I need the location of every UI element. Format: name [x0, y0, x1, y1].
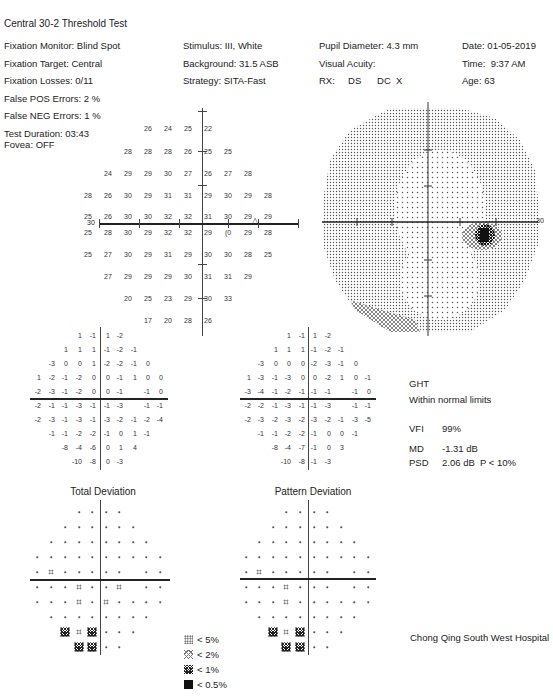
deviation-value: -2 [49, 374, 55, 381]
threshold-value: 28 [244, 170, 252, 177]
threshold-value: (0 [225, 229, 231, 236]
normal-dot-icon [353, 586, 355, 588]
test-title: Central 30-2 Threshold Test [4, 18, 127, 29]
deviation-value: 1 [247, 374, 251, 381]
deviation-value: 1 [78, 332, 82, 339]
deviation-value: 1 [106, 332, 110, 339]
normal-dot-icon [326, 541, 328, 543]
normal-dot-icon [91, 541, 93, 543]
normal-dot-icon [105, 556, 107, 558]
normal-dot-icon [78, 616, 80, 618]
p5-symbol-icon [77, 630, 82, 635]
threshold-value: 30 [224, 192, 232, 199]
deviation-value: -3 [285, 416, 291, 423]
deviation-value: -1 [311, 388, 317, 395]
deviation-value: -2 [35, 388, 41, 395]
patient-age: Age: 63 [462, 72, 536, 90]
exam-date: Date: 01-05-2019 [462, 37, 536, 55]
normal-dot-icon [258, 616, 260, 618]
deviation-value: -1 [90, 402, 96, 409]
normal-dot-icon [118, 616, 120, 618]
p1-symbol-icon [88, 643, 97, 652]
deviation-value: -3 [49, 416, 55, 423]
threshold-value: 30 [124, 229, 132, 236]
deviation-value: 1 [287, 332, 291, 339]
deviation-value: -3 [76, 416, 82, 423]
normal-dot-icon [313, 631, 315, 633]
threshold-value: 30 [124, 251, 132, 258]
normal-dot-icon [367, 586, 369, 588]
deviation-value: -1 [325, 388, 331, 395]
threshold-value: 26 [144, 125, 152, 132]
legend-2pct: < 2% [184, 647, 227, 662]
psd-label: PSD [409, 457, 442, 468]
threshold-value: 30 [204, 295, 212, 302]
stimulus-parameters: Stimulus: III, White Background: 31.5 AS… [183, 37, 279, 90]
deviation-value: -1 [117, 374, 123, 381]
deviation-value: -3 [325, 402, 331, 409]
visual-acuity: Visual Acuity: [319, 55, 418, 73]
deviation-value: -1 [311, 402, 317, 409]
normal-dot-icon [313, 541, 315, 543]
normal-dot-icon [299, 511, 301, 513]
normal-dot-icon [285, 541, 287, 543]
deviation-value: -2 [299, 416, 305, 423]
deviation-value: 1 [133, 430, 137, 437]
threshold-value: 31 [164, 192, 172, 199]
deviation-value: -2 [325, 416, 331, 423]
normal-dot-icon [285, 616, 287, 618]
normal-dot-icon [340, 526, 342, 528]
deviation-value: -3 [285, 402, 291, 409]
vfi-value: 99% [442, 423, 461, 434]
deviation-value: -8 [62, 444, 68, 451]
normal-dot-icon [299, 586, 301, 588]
deviation-value: 0 [301, 374, 305, 381]
deviation-value: -3 [104, 416, 110, 423]
threshold-value: 22 [204, 125, 212, 132]
normal-dot-icon [159, 571, 161, 573]
deviation-value: 0 [119, 430, 123, 437]
deviation-value: -1 [144, 430, 150, 437]
deviation-value: -4 [157, 416, 163, 423]
threshold-value: 30 [164, 170, 172, 177]
p5-symbol-icon [284, 630, 289, 635]
normal-dot-icon [285, 511, 287, 513]
deviation-value: 1 [37, 374, 41, 381]
p1-symbol-icon [269, 628, 278, 637]
deviation-value: -4 [258, 388, 264, 395]
threshold-value: 27 [224, 170, 232, 177]
deviation-value: -3 [325, 458, 331, 465]
normal-dot-icon [36, 601, 38, 603]
threshold-value: 28 [84, 192, 92, 199]
threshold-value: 30 [204, 251, 212, 258]
deviation-value: 0 [64, 360, 68, 367]
probability-legend: < 5% < 2% < 1% < 0.5% [184, 632, 227, 692]
normal-dot-icon [285, 556, 287, 558]
p1-symbol-icon [282, 643, 291, 652]
deviation-value: 0 [327, 430, 331, 437]
threshold-value: 32 [164, 229, 172, 236]
threshold-value: 17 [144, 317, 152, 324]
threshold-value: 31 [204, 273, 212, 280]
deviation-value: 0 [92, 374, 96, 381]
deviation-value: -2 [285, 388, 291, 395]
normal-dot-icon [159, 556, 161, 558]
threshold-value: 31 [224, 273, 232, 280]
threshold-value: 31 [204, 213, 212, 220]
deviation-value: -1 [338, 360, 344, 367]
threshold-value: 28 [164, 148, 172, 155]
td-prob-horizontal-axis [30, 579, 170, 581]
deviation-value: 0 [78, 360, 82, 367]
fixation-target: Fixation Target: Central [4, 55, 120, 73]
deviation-value: -1 [104, 346, 110, 353]
normal-dot-icon [105, 541, 107, 543]
deviation-value: -1 [299, 332, 305, 339]
normal-dot-icon [64, 616, 66, 618]
threshold-value: 26 [204, 317, 212, 324]
false-neg-errors: False NEG Errors: 1 % [4, 107, 120, 125]
fixation-monitor: Fixation Monitor: Blind Spot [4, 37, 120, 55]
ght-label: GHT [409, 378, 516, 389]
deviation-value: 1 [119, 444, 123, 451]
threshold-value: 27 [104, 273, 112, 280]
threshold-value: 32 [184, 213, 192, 220]
